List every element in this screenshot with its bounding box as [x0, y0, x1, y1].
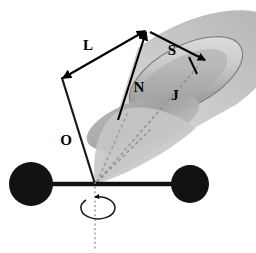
- label-N: N: [134, 79, 145, 95]
- dumbbell-ball-left: [9, 162, 53, 206]
- label-S: S: [168, 42, 176, 58]
- rotation-spin-ellipse: [81, 197, 115, 219]
- diagram-canvas: L N S J O: [0, 0, 256, 253]
- label-L: L: [83, 37, 93, 53]
- label-J: J: [171, 87, 179, 103]
- label-O: O: [60, 132, 72, 148]
- physics-diagram-figure: L N S J O: [0, 0, 256, 253]
- dumbbell-ball-right: [171, 165, 209, 203]
- rotation-indicator-group: [81, 182, 115, 249]
